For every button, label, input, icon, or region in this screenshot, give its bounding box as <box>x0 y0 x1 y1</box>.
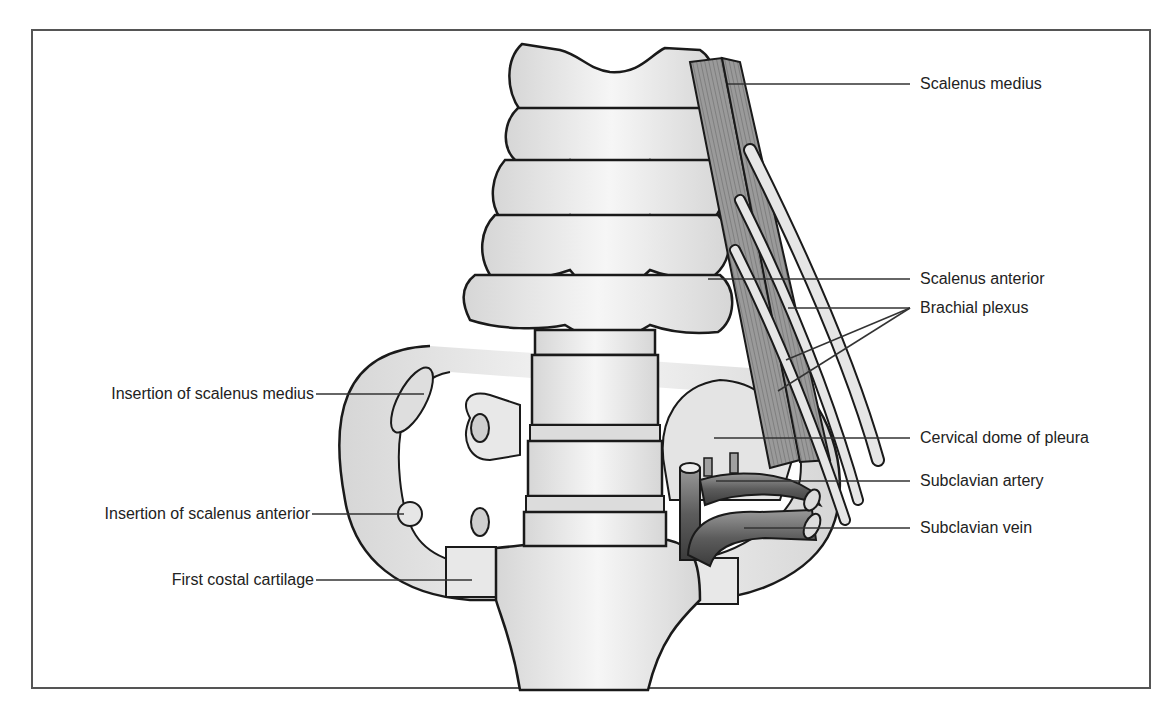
label-insertion-of-scalenus-anterior: Insertion of scalenus anterior <box>105 505 310 523</box>
manubrium <box>496 540 700 690</box>
label-subclavian-vein: Subclavian vein <box>920 519 1032 537</box>
label-scalenus-medius: Scalenus medius <box>920 75 1042 93</box>
label-insertion-of-scalenus-medius: Insertion of scalenus medius <box>111 385 314 403</box>
label-cervical-dome-of-pleura: Cervical dome of pleura <box>920 429 1089 447</box>
label-first-costal-cartilage: First costal cartilage <box>172 571 314 589</box>
label-subclavian-artery: Subclavian artery <box>920 472 1044 490</box>
label-brachial-plexus: Brachial plexus <box>920 299 1029 317</box>
neck-anatomy-illustration <box>0 0 1176 708</box>
label-scalenus-anterior: Scalenus anterior <box>920 270 1045 288</box>
